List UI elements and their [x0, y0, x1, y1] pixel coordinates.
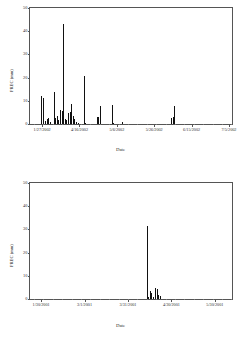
x-minor-tick	[194, 299, 195, 300]
bar	[174, 106, 175, 124]
x-minor-tick	[109, 124, 110, 125]
x-minor-tick	[72, 299, 73, 300]
bar-series-2001	[30, 183, 232, 299]
x-minor-tick	[194, 124, 195, 125]
x-minor-tick	[128, 299, 129, 300]
x-minor-tick	[147, 299, 148, 300]
chart-panel-2002: PREC (mm) 2002 010203040501/27/20024/16/…	[0, 0, 241, 171]
chart-panel-2001: PREC (mm) 2001 010203040501/30/20013/1/2…	[0, 172, 241, 343]
x-tick-label: 5/26/2002	[146, 128, 163, 132]
bar	[147, 226, 148, 299]
x-minor-tick	[81, 124, 82, 125]
x-minor-tick	[128, 124, 129, 125]
x-minor-tick	[34, 124, 35, 125]
y-tick-mark	[28, 229, 31, 230]
y-tick-mark	[28, 183, 31, 184]
x-tick-label: 7/5/2002	[222, 128, 237, 132]
x-minor-tick	[90, 299, 91, 300]
x-axis-title-bottom: Date	[0, 323, 241, 328]
bar	[100, 106, 101, 124]
bar	[63, 24, 64, 124]
x-minor-tick	[34, 299, 35, 300]
x-minor-tick	[213, 299, 214, 300]
bar	[45, 121, 46, 124]
y-tick-mark	[28, 276, 31, 277]
y-tick-mark	[28, 299, 31, 300]
x-minor-tick	[222, 299, 223, 300]
x-minor-tick	[119, 124, 120, 125]
bar	[158, 295, 159, 299]
x-minor-tick	[100, 299, 101, 300]
bar	[84, 76, 85, 124]
x-minor-tick	[62, 124, 63, 125]
y-tick-mark	[28, 206, 31, 207]
y-tick-mark	[28, 253, 31, 254]
x-minor-tick	[90, 124, 91, 125]
x-tick-label: 1/27/2002	[34, 128, 51, 132]
x-minor-tick	[231, 124, 232, 125]
plot-area-2001: 010203040501/30/20013/1/20013/31/20014/3…	[29, 182, 233, 300]
x-minor-tick	[175, 299, 176, 300]
y-tick-mark	[28, 101, 31, 102]
x-minor-tick	[166, 124, 167, 125]
x-minor-tick	[100, 124, 101, 125]
x-minor-tick	[109, 299, 110, 300]
x-tick-label: 3/31/2001	[119, 303, 136, 307]
x-minor-tick	[137, 124, 138, 125]
x-minor-tick	[203, 124, 204, 125]
plot-area-2002: 010203040501/27/20024/16/20025/6/20025/2…	[29, 7, 233, 125]
x-minor-tick	[156, 299, 157, 300]
x-minor-tick	[43, 124, 44, 125]
y-axis-title-bottom: PREC (mm)	[9, 244, 14, 267]
x-tick-label: 3/1/2001	[77, 303, 92, 307]
x-minor-tick	[184, 299, 185, 300]
x-minor-tick	[203, 299, 204, 300]
y-tick-mark	[28, 8, 31, 9]
x-minor-tick	[213, 124, 214, 125]
x-tick-label: 1/30/2001	[33, 303, 50, 307]
x-minor-tick	[119, 299, 120, 300]
bar	[43, 98, 44, 124]
y-tick-mark	[28, 31, 31, 32]
y-tick-mark	[28, 124, 31, 125]
bar	[50, 122, 51, 124]
bar	[112, 105, 113, 124]
x-minor-tick	[43, 299, 44, 300]
x-tick-label: 5/6/2002	[109, 128, 124, 132]
bar	[160, 296, 161, 299]
x-minor-tick	[222, 124, 223, 125]
x-minor-tick	[137, 299, 138, 300]
x-axis-title-top: Date	[0, 147, 241, 152]
x-minor-tick	[53, 124, 54, 125]
y-axis-title-top: PREC (mm)	[9, 69, 14, 92]
x-minor-tick	[231, 299, 232, 300]
x-minor-tick	[81, 299, 82, 300]
x-minor-tick	[72, 124, 73, 125]
x-minor-tick	[62, 299, 63, 300]
x-tick-label: 6/15/2002	[183, 128, 200, 132]
x-minor-tick	[147, 124, 148, 125]
x-minor-tick	[175, 124, 176, 125]
x-minor-tick	[53, 299, 54, 300]
bar	[153, 297, 154, 299]
bar-series-2002	[30, 8, 232, 124]
x-tick-label: 4/30/2001	[163, 303, 180, 307]
x-minor-tick	[156, 124, 157, 125]
bar	[85, 123, 86, 124]
y-tick-mark	[28, 54, 31, 55]
bar	[113, 123, 114, 124]
x-minor-tick	[166, 299, 167, 300]
precipitation-figure: PREC (mm) 2002 010203040501/27/20024/16/…	[0, 0, 241, 343]
y-tick-mark	[28, 78, 31, 79]
x-minor-tick	[184, 124, 185, 125]
x-tick-label: 4/16/2002	[71, 128, 88, 132]
bar	[122, 122, 123, 124]
x-tick-label: 5/30/2001	[206, 303, 223, 307]
